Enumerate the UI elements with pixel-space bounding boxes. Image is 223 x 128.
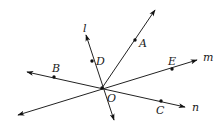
point-B-label: B (51, 62, 60, 75)
point-A (133, 38, 136, 41)
point-O-label: O (107, 92, 116, 105)
line-l-label: l (83, 22, 87, 35)
point-E-label: E (167, 55, 176, 68)
point-B (52, 75, 55, 78)
point-D-label: D (95, 55, 105, 68)
point-C-label: C (156, 104, 165, 117)
point-A-label: A (138, 37, 147, 50)
point-O (100, 86, 103, 89)
geometry-diagram: lmnABCDEO (0, 0, 223, 128)
point-C (159, 99, 162, 102)
line-l (86, 35, 114, 120)
point-D (90, 59, 93, 62)
line-n-label: n (192, 101, 199, 114)
line-m-label: m (203, 51, 213, 64)
ray-OA (102, 10, 155, 88)
diagram-labels: lmnABCDEO (51, 22, 213, 117)
line-m (18, 60, 197, 115)
